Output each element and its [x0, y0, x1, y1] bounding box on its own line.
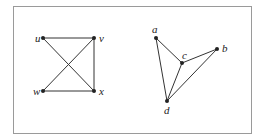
node-label-b: b	[222, 42, 228, 54]
graphs-group: uvwxabcd	[33, 23, 228, 116]
edge-b-d	[167, 49, 217, 101]
graph-figure: uvwxabcd	[0, 0, 265, 139]
node-u	[41, 36, 45, 40]
node-label-a: a	[152, 23, 158, 35]
edge-c-d	[167, 63, 182, 101]
right-graph: abcd	[152, 23, 228, 116]
node-label-d: d	[164, 104, 170, 116]
node-x	[92, 89, 96, 93]
node-v	[92, 36, 96, 40]
node-label-c: c	[182, 49, 187, 61]
node-b	[215, 47, 219, 51]
edge-c-b	[182, 49, 217, 63]
node-d	[165, 99, 169, 103]
figure-frame	[14, 7, 252, 134]
node-a	[154, 36, 158, 40]
left-graph: uvwx	[33, 32, 104, 97]
node-w	[41, 89, 45, 93]
node-label-u: u	[35, 32, 41, 44]
node-label-w: w	[33, 85, 41, 97]
node-label-v: v	[99, 32, 104, 44]
node-c	[180, 61, 184, 65]
node-label-x: x	[98, 85, 104, 97]
